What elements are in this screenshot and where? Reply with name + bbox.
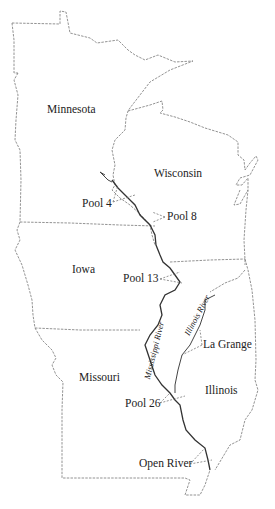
lake-michigan-shore <box>210 270 245 292</box>
pool26-leader <box>160 393 185 403</box>
site-label-pool4: Pool 4 <box>82 198 112 210</box>
minnesota-river-spur <box>100 172 112 182</box>
minnesota-boundary <box>12 11 193 245</box>
state-label-missouri: Missouri <box>79 372 120 384</box>
site-label-lagrange: La Grange <box>203 339 252 351</box>
minnesota-iowa-border <box>20 222 155 226</box>
site-label-pool26: Pool 26 <box>125 398 160 410</box>
state-label-illinois: Illinois <box>205 385 238 397</box>
wisconsin-boundary <box>128 101 258 265</box>
door-peninsula <box>234 190 248 205</box>
state-label-iowa: Iowa <box>72 264 95 276</box>
site-label-pool8: Pool 8 <box>167 211 197 223</box>
site-label-openriver: Open River <box>139 458 192 470</box>
pool13-leader <box>160 272 182 283</box>
state-label-wisconsin: Wisconsin <box>154 168 202 180</box>
iowa-west-boundary <box>15 222 35 328</box>
state-label-minnesota: Minnesota <box>47 104 96 116</box>
minnesota-west-edge <box>12 23 18 73</box>
iowa-missouri-border <box>35 328 140 330</box>
pool8-leader <box>152 212 165 222</box>
wisconsin-illinois-border <box>170 259 245 262</box>
site-label-pool13: Pool 13 <box>123 273 158 285</box>
illinois-east-boundary <box>215 259 258 470</box>
upper-mississippi-map <box>0 0 275 509</box>
